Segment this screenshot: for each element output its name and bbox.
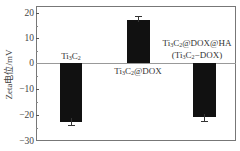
- error-bar: [71, 118, 72, 125]
- bar-ti3c2-dox: [127, 20, 150, 63]
- y-tick-label: 0: [29, 58, 34, 68]
- y-minor-tick: [36, 128, 38, 129]
- y-minor-tick: [36, 26, 38, 27]
- bar-label-ti3c2-dox: Ti3C2@DOX: [108, 66, 168, 78]
- error-bar: [204, 114, 205, 121]
- y-tick: [36, 13, 39, 14]
- y-tick-label: −20: [19, 110, 34, 120]
- y-tick: [36, 89, 39, 90]
- error-cap: [68, 125, 75, 126]
- y-minor-tick: [36, 51, 38, 52]
- bar-label-ti3c2-dox-abbrev: (Ti3C2−DOX): [155, 50, 239, 62]
- error-cap: [135, 16, 142, 17]
- y-axis-label: Zeta电位/mV: [2, 45, 15, 105]
- y-tick-label: −10: [19, 84, 34, 94]
- bar-label-ti3c2: Ti3C2: [58, 51, 84, 63]
- y-tick: [36, 38, 39, 39]
- bar-ti3c2-dox-ha: [193, 63, 216, 117]
- y-tick: [36, 115, 39, 116]
- y-minor-tick: [36, 76, 38, 77]
- y-tick-label: 10: [25, 33, 35, 43]
- y-tick-label: 20: [25, 8, 35, 18]
- bar-ti3c2: [60, 63, 82, 122]
- y-minor-tick: [36, 102, 38, 103]
- error-cap: [201, 121, 208, 122]
- bar-label-ti3c2-dox-ha: Ti3C2@DOX@HA: [155, 38, 239, 50]
- y-tick-label: −30: [19, 136, 34, 146]
